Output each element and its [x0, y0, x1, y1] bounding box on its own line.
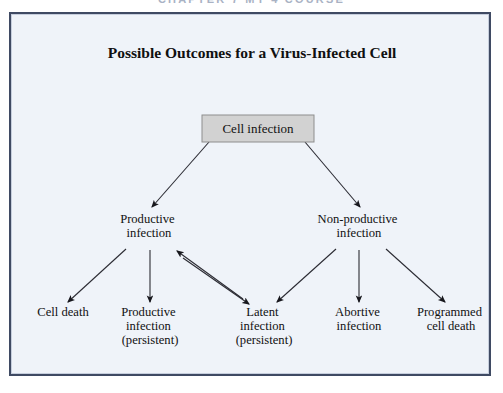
node-cell-infection-label: Cell infection: [222, 121, 294, 136]
edge-non-productive-to-programmed-cell-death: [386, 249, 445, 302]
node-abortive-infection: Abortive infection: [335, 305, 383, 333]
edge-latent-to-productive: [177, 251, 243, 299]
node-latent-infection-persistent: Latent infection (persistent): [236, 305, 293, 347]
edge-productive-to-latent: [183, 258, 249, 304]
node-cell-death: Cell death: [37, 305, 89, 319]
running-head: CHAPTER 7 MY 4 COURSE: [0, 0, 503, 3]
figure-frame: Possible Outcomes for a Virus-Infected C…: [9, 12, 491, 376]
node-productive-infection: Productive infection: [120, 212, 178, 240]
node-non-productive-infection: Non-productive infection: [318, 212, 401, 240]
edge-cell-infection-to-productive: [152, 142, 209, 207]
node-productive-infection-persistent: Productive infection (persistent): [121, 305, 179, 347]
edge-non-productive-to-latent: [277, 249, 336, 302]
node-programmed-cell-death: Programmed cell death: [417, 305, 485, 333]
diagram-nodes: Cell infection Productive infection Non-…: [37, 115, 485, 347]
flowchart-diagram: Cell infection Productive infection Non-…: [11, 14, 493, 378]
edge-cell-infection-to-non-productive: [305, 142, 360, 207]
edge-productive-to-cell-death: [68, 249, 126, 302]
